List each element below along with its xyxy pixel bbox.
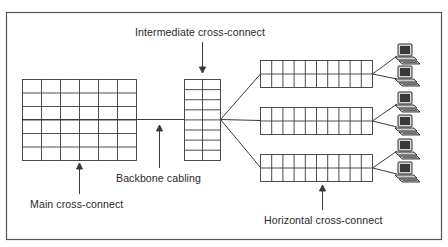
- intermediate-cross-connect-grid: [185, 80, 221, 161]
- workstation-icon-3: [395, 92, 420, 112]
- workstation-icon-2: [395, 66, 420, 86]
- arrow-icons: [77, 42, 326, 210]
- main-cross-connect-label: Main cross-connect: [30, 198, 123, 210]
- intermediate-cross-connect-label: Intermediate cross-connect: [135, 26, 265, 38]
- horizontal-cross-connect-grid-2: [261, 108, 373, 135]
- horizontal-cabling-links: [221, 74, 261, 168]
- workstation-icon-4: [395, 115, 420, 135]
- workstation-icon-6: [395, 162, 420, 182]
- horizontal-cross-connect-grid-1: [261, 61, 373, 88]
- workstation-links: [373, 56, 398, 174]
- horizontal-cross-connect-label: Horizontal cross-connect: [264, 214, 383, 226]
- workstation-icon-1: [395, 44, 420, 64]
- horizontal-cross-connect-grid-3: [261, 155, 373, 182]
- workstation-icon-5: [395, 139, 420, 159]
- backbone-cabling-label: Backbone cabling: [116, 172, 201, 184]
